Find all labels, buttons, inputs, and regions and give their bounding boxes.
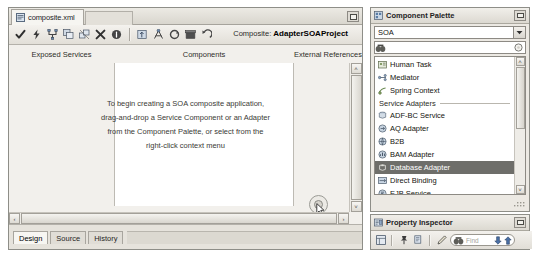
pencil-icon[interactable] <box>435 234 448 247</box>
palette-item-label: B2B <box>390 137 404 146</box>
refresh-circle-icon[interactable] <box>167 27 182 42</box>
palette-vertical-scrollbar[interactable]: ˄ ˅ <box>514 57 525 194</box>
mediator-icon <box>378 73 387 82</box>
b2b-icon <box>378 137 387 146</box>
palette-search-icon <box>375 43 386 53</box>
search-go-icon[interactable] <box>512 43 525 52</box>
palette-item-mediator[interactable]: Mediator <box>375 71 514 84</box>
inspector-toolbar-separator-2 <box>429 235 431 246</box>
database-adapter-icon <box>378 163 387 172</box>
topology-button[interactable] <box>45 27 60 42</box>
package-icon[interactable] <box>183 27 198 42</box>
find-binoculars-icon <box>453 236 464 245</box>
palette-item-label: Mediator <box>390 73 419 82</box>
pin-icon[interactable] <box>397 234 410 247</box>
palette-scroll-up-arrow[interactable]: ˄ <box>516 57 525 66</box>
palette-type-select[interactable]: SOA <box>374 26 526 39</box>
ejb-service-icon <box>378 189 387 195</box>
scroll-up-arrow[interactable]: ˄ <box>351 63 362 74</box>
palette-item-label: Human Task <box>390 60 432 69</box>
property-inspector-window: Property Inspector <box>370 214 530 250</box>
palette-minimize-icon[interactable] <box>514 10 526 21</box>
find-up-arrow-icon[interactable] <box>504 236 512 245</box>
inspector-find-input[interactable]: Find <box>466 237 492 244</box>
document-tab-composite-xml[interactable]: composite.xml <box>11 9 84 25</box>
adf-bc-service-icon <box>378 111 387 120</box>
delete-x-icon[interactable] <box>93 27 108 42</box>
palette-component-list[interactable]: Human Task Mediator Spring Context Servi… <box>374 56 526 195</box>
editor-toolbar: Composite: AdapterSOAProject <box>9 25 362 45</box>
palette-search-box[interactable] <box>374 41 526 54</box>
property-inspector-icon <box>374 218 383 227</box>
component-palette-titlebar: Component Palette <box>371 8 529 24</box>
find-down-arrow-icon[interactable] <box>494 236 502 245</box>
header-exposed-services: Exposed Services <box>9 45 114 63</box>
palette-item-database-adapter[interactable]: Database Adapter <box>375 161 514 174</box>
palette-section-service-adapters: Service Adapters <box>375 97 514 109</box>
tab-list-dropdown-icon[interactable] <box>347 11 359 22</box>
palette-item-direct-binding[interactable]: Direct Binding <box>375 174 514 187</box>
property-inspector-toolbar: Find <box>371 231 532 249</box>
copy-page-icon[interactable] <box>412 234 425 247</box>
palette-item-label: EJB Service <box>390 189 431 195</box>
palette-scroll-down-arrow[interactable]: ˅ <box>516 185 525 194</box>
palette-item-spring-context[interactable]: Spring Context <box>375 84 514 97</box>
inspector-minimize-icon[interactable] <box>514 217 526 228</box>
hint-line-1: To begin creating a SOA composite applic… <box>15 97 356 111</box>
property-inspector-title: Property Inspector <box>386 218 453 227</box>
aq-adapter-icon <box>378 124 387 133</box>
header-external-references: External References <box>294 45 362 63</box>
component-palette-title: Component Palette <box>386 11 454 20</box>
palette-type-value: SOA <box>375 28 513 37</box>
deploy-box-icon[interactable] <box>135 27 150 42</box>
scroll-right-arrow[interactable]: › <box>338 213 349 224</box>
undo-arrow-icon[interactable] <box>199 27 214 42</box>
tab-design[interactable]: Design <box>13 231 48 244</box>
tab-source[interactable]: Source <box>50 231 86 244</box>
duplicate-icon[interactable] <box>61 27 76 42</box>
scroll-down-arrow[interactable]: ˅ <box>351 201 362 212</box>
test-connections-icon[interactable] <box>151 27 166 42</box>
palette-item-human-task[interactable]: Human Task <box>375 58 514 71</box>
palette-item-bam-adapter[interactable]: BAM Adapter <box>375 148 514 161</box>
palette-resize-grip[interactable] <box>513 200 525 208</box>
canvas-vertical-scroll-thumb[interactable] <box>351 75 362 200</box>
bam-adapter-icon <box>378 150 387 159</box>
tab-history[interactable]: History <box>88 231 123 244</box>
hint-line-2: drag-and-drop a Service Component or an … <box>15 111 356 125</box>
palette-item-label: Database Adapter <box>390 163 450 172</box>
composite-prefix: Composite: <box>233 29 271 38</box>
build-button[interactable] <box>29 27 44 42</box>
human-task-icon <box>378 60 387 69</box>
palette-vertical-scroll-thumb[interactable] <box>516 67 525 129</box>
document-tab-label: composite.xml <box>28 13 75 22</box>
component-palette-window: Component Palette SOA <box>370 7 530 212</box>
chevron-down-icon[interactable] <box>513 27 525 38</box>
composite-canvas[interactable]: Exposed Services Components External Ref… <box>9 45 362 224</box>
inspector-titlebar-gap <box>456 215 511 230</box>
palette-section-label: Service Adapters <box>379 99 436 108</box>
palette-item-adf-bc-service[interactable]: ADF-BC Service <box>375 109 514 122</box>
hint-line-4: right-click context menu <box>15 139 356 153</box>
composite-editor-window: composite.xml <box>8 7 363 250</box>
composite-name-value: AdapterSOAProject <box>273 29 348 38</box>
palette-item-label: ADF-BC Service <box>390 111 445 120</box>
palette-item-ejb-service[interactable]: EJB Service <box>375 187 514 195</box>
xml-file-icon <box>16 13 25 22</box>
palette-item-label: BAM Adapter <box>390 150 434 159</box>
palette-item-label: AQ Adapter <box>390 124 429 133</box>
unlink-icon[interactable] <box>77 27 92 42</box>
canvas-vertical-scrollbar[interactable]: ˄ ˅ <box>349 63 362 212</box>
composite-name-label: Composite: AdapterSOAProject <box>233 29 348 38</box>
canvas-horizontal-scroll-thumb[interactable] <box>21 213 337 224</box>
validate-button[interactable] <box>13 27 28 42</box>
palette-item-label: Spring Context <box>390 86 440 95</box>
palette-item-aq-adapter[interactable]: AQ Adapter <box>375 122 514 135</box>
categories-icon[interactable] <box>374 234 387 247</box>
canvas-horizontal-scrollbar[interactable]: ‹ › <box>9 212 349 224</box>
info-circle-icon[interactable] <box>109 27 124 42</box>
inspector-find-box[interactable]: Find <box>450 234 515 246</box>
palette-section-rule <box>440 103 510 104</box>
scroll-left-arrow[interactable]: ‹ <box>9 213 20 224</box>
palette-item-b2b[interactable]: B2B <box>375 135 514 148</box>
